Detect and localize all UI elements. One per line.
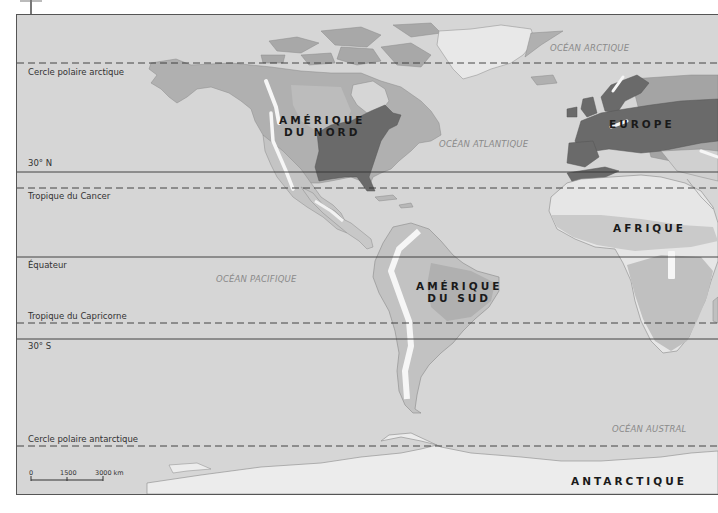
- world-map: Cercle polaire arctique 30° N Tropique d…: [16, 14, 718, 495]
- continent-label-north-america: AMÉRIQUE DU NORD: [279, 114, 365, 138]
- ocean-label-austral: OCÉAN AUSTRAL: [612, 424, 687, 434]
- lat-label-30n: 30° N: [28, 158, 52, 168]
- lat-label-tropic-cancer: Tropique du Cancer: [28, 191, 110, 201]
- continent-label-africa: AFRIQUE: [613, 222, 686, 234]
- continent-label-north-america-line1: AMÉRIQUE: [279, 114, 365, 126]
- continent-label-south-america-line2: DU SUD: [416, 292, 502, 304]
- tab-marker: [30, 0, 32, 14]
- scale-tick-3000: 3000 km: [95, 469, 124, 477]
- ocean-label-pacific: OCÉAN PACIFIQUE: [216, 274, 297, 284]
- lat-label-30s: 30° S: [28, 341, 51, 351]
- lat-label-antarctic-circle: Cercle polaire antarctique: [28, 434, 138, 444]
- lat-label-arctic-circle: Cercle polaire arctique: [28, 67, 124, 77]
- continent-label-north-america-line2: DU NORD: [279, 126, 365, 138]
- lat-label-tropic-capricorn: Tropique du Capricorne: [28, 311, 127, 321]
- scale-tick-0: 0: [29, 469, 33, 477]
- continent-label-antarctica: ANTARCTIQUE: [571, 475, 687, 487]
- ocean-label-arctic: OCÉAN ARCTIQUE: [550, 43, 629, 53]
- continent-label-europe: EUROPE: [609, 118, 675, 130]
- continent-label-south-america: AMÉRIQUE DU SUD: [416, 280, 502, 304]
- scale-tick-1500: 1500: [60, 469, 77, 477]
- lat-label-equator: Équateur: [28, 260, 67, 270]
- continent-label-south-america-line1: AMÉRIQUE: [416, 280, 502, 292]
- ocean-label-atlantic: OCÉAN ATLANTIQUE: [439, 139, 528, 149]
- map-canvas: [17, 15, 718, 494]
